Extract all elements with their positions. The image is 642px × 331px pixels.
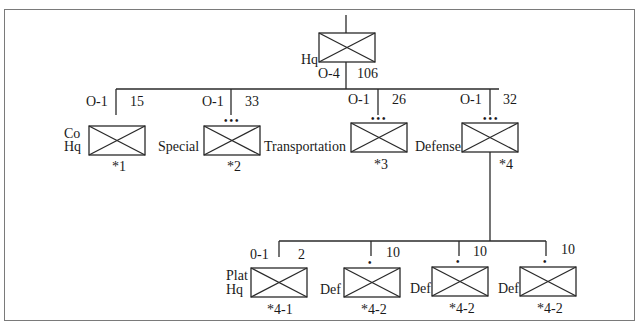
subunit-3-enlisted-count: 10: [473, 245, 487, 259]
unit-1-label-line2: Hq: [64, 140, 81, 154]
unit-2-enlisted-count: 33: [245, 95, 259, 109]
unit-3-enlisted-count: 26: [392, 93, 406, 107]
unit-2-size-marker: •••: [224, 117, 241, 125]
unit-2-label-right: Transportation: [264, 140, 346, 154]
subunit-1-label-line1: Plat: [226, 269, 248, 283]
subunit-4-size-marker: •: [543, 258, 549, 266]
subunit-1-enlisted-count: 2: [298, 248, 305, 262]
unit-3-officer-count: O-1: [348, 93, 370, 107]
subunit-2-note: *4-2: [361, 303, 387, 317]
subunit-1-note: *4-1: [267, 303, 293, 317]
unit-2-officer-count: O-1: [202, 95, 224, 109]
unit-3-note: *3: [374, 158, 388, 172]
subunit-2-label: Def: [320, 283, 341, 297]
unit-4-label-left: Defense: [415, 140, 461, 154]
unit-4-officer-count: O-1: [460, 93, 482, 107]
unit-1-note: *1: [112, 160, 126, 174]
subunit-4-note: *4-2: [537, 302, 563, 316]
subunit-2-size-marker: •: [368, 259, 374, 267]
root-unit-label: Hq: [301, 53, 318, 67]
unit-2-note: *2: [227, 160, 241, 174]
subunit-1-officer-count: 0-1: [250, 248, 269, 262]
unit-4-note: *4: [499, 158, 513, 172]
subunit-2-enlisted-count: 10: [386, 246, 400, 260]
unit-4-enlisted-count: 32: [503, 93, 517, 107]
unit-1-enlisted-count: 15: [130, 95, 144, 109]
root-officer-count: O-4: [318, 67, 340, 81]
subunit-3-label: Def: [410, 282, 431, 296]
subunit-4-enlisted-count: 10: [561, 243, 575, 257]
subunit-3-size-marker: •: [456, 258, 462, 266]
unit-3-size-marker: •••: [371, 115, 388, 123]
unit-4-size-marker: •••: [483, 115, 500, 123]
subunit-4-label: Def: [498, 282, 519, 296]
subunit-3-note: *4-2: [449, 302, 475, 316]
root-enlisted-count: 106: [357, 67, 378, 81]
unit-1-officer-count: O-1: [86, 95, 108, 109]
unit-2-label-left: Special: [158, 140, 199, 154]
subunit-1-label-line2: Hq: [226, 283, 243, 297]
